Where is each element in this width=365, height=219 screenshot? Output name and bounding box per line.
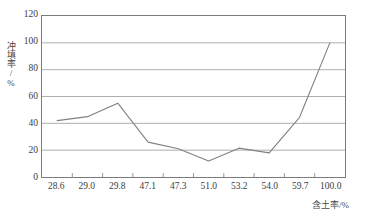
plot-area: [41, 15, 346, 178]
y-tick-label: 40: [14, 119, 38, 129]
x-tick-label: 29.0: [78, 181, 95, 192]
data-series-line: [57, 43, 330, 161]
y-tick-label: 20: [14, 146, 38, 156]
x-tick-label: 54.0: [261, 181, 278, 192]
x-axis-tick-labels: 28.629.029.847.147.351.053.254.059.7100.…: [41, 181, 346, 195]
line-chart-figure: 冲填率/% 020406080100120 28.629.029.847.147…: [0, 0, 365, 219]
x-tick-label: 47.3: [170, 181, 187, 192]
x-tick-label: 51.0: [200, 181, 217, 192]
x-tick-label: 29.8: [109, 181, 126, 192]
y-tick-label: 80: [14, 64, 38, 74]
x-axis-tick-marks: [72, 173, 314, 177]
x-tick-label: 100.0: [320, 181, 341, 192]
x-axis-title: 含土率/%: [312, 200, 349, 211]
y-tick-label: 0: [14, 173, 38, 183]
y-axis-tick-labels: 020406080100120: [14, 0, 40, 219]
y-tick-label: 100: [14, 37, 38, 47]
x-tick-label: 47.1: [139, 181, 156, 192]
x-tick-label: 59.7: [292, 181, 309, 192]
x-tick-label: 28.6: [48, 181, 65, 192]
plot-svg: [42, 16, 345, 177]
gridlines-group: [42, 43, 345, 150]
y-tick-label: 120: [14, 10, 38, 20]
x-tick-label: 53.2: [231, 181, 248, 192]
y-tick-label: 60: [14, 92, 38, 102]
